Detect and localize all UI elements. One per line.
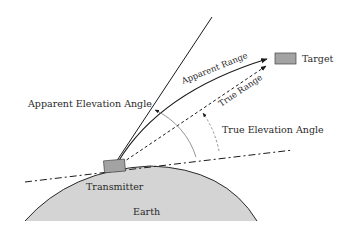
- transmitter-label: Transmitter: [86, 181, 144, 192]
- refraction-diagram: Target Apparent Range True Range Apparen…: [0, 0, 350, 240]
- target-label: Target: [302, 53, 334, 64]
- apparent-elevation-arc: [155, 110, 196, 157]
- true-range-label: True Range: [217, 72, 265, 109]
- target-box: [275, 53, 296, 64]
- true-elevation-angle-label: True Elevation Angle: [222, 124, 324, 135]
- earth-label: Earth: [133, 206, 160, 217]
- apparent-elevation-angle-label: Apparent Elevation Angle: [27, 98, 152, 109]
- apparent-direction-line: [116, 17, 212, 162]
- true-elevation-arc: [203, 113, 219, 151]
- transmitter-box: [104, 159, 126, 173]
- apparent-range-label: Apparent Range: [179, 50, 249, 86]
